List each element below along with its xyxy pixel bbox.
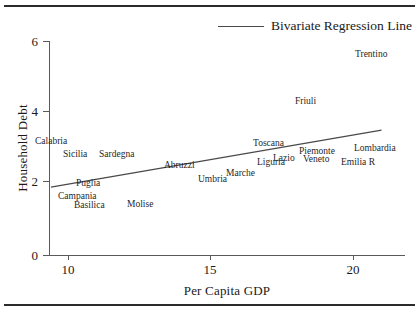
legend-label: Bivariate Regression Line (271, 19, 412, 33)
data-point-label: Abruzzi (164, 160, 195, 170)
data-point-label: Marche (226, 168, 255, 178)
data-point-label: Liguria (257, 157, 285, 167)
data-point-label: Veneto (303, 154, 329, 164)
data-point-label: Puglia (76, 178, 100, 188)
data-point-label: Calabria (35, 136, 67, 146)
y-axis-label: Household Debt (15, 78, 31, 218)
data-point-label: Toscana (253, 138, 284, 148)
legend: Bivariate Regression Line (218, 18, 412, 34)
data-point-label: Sicilia (63, 149, 87, 159)
x-axis-label: Per Capita GDP (49, 283, 405, 299)
data-point-label: Basilica (74, 200, 105, 210)
data-point-label: Friuli (295, 96, 316, 106)
data-point-label: Trentino (355, 49, 387, 59)
legend-line-swatch (218, 26, 264, 27)
data-point-label: Sardegna (99, 149, 134, 159)
data-point-label: Molise (127, 199, 153, 209)
data-point-label: Emilia R (341, 157, 375, 167)
plot-area: 0246 101520 TrentinoFriuliCalabriaSicili… (0, 0, 419, 319)
data-point-label: Umbria (198, 174, 227, 184)
data-point-label: Lombardia (354, 143, 396, 153)
regression-scatter-figure: 0246 101520 TrentinoFriuliCalabriaSicili… (0, 0, 419, 319)
